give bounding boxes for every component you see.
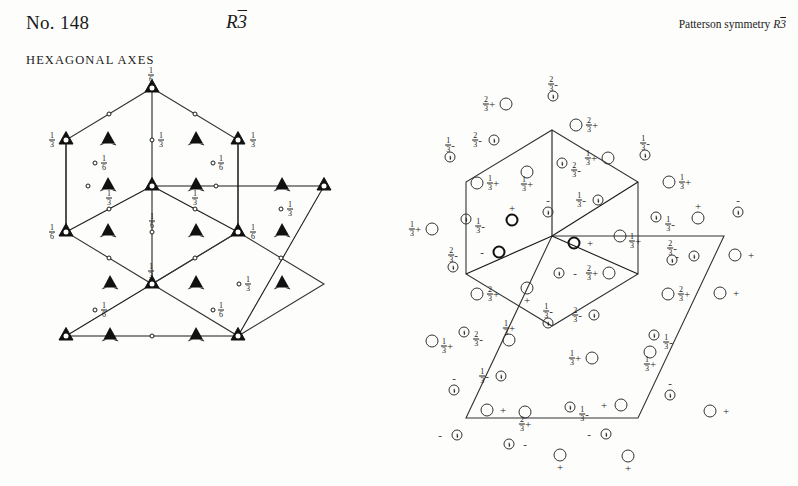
three-bar-axis-symbol	[230, 327, 246, 346]
three-fold-axis-symbol	[273, 176, 291, 196]
height-label: 13	[287, 201, 293, 218]
general-position-comma-circle	[651, 212, 662, 223]
general-position-comma-circle	[554, 268, 565, 279]
inversion-centre-symbol	[150, 230, 155, 235]
patterson-bar-three: 3	[780, 18, 786, 30]
general-position-circle	[481, 404, 494, 417]
inversion-centre-symbol	[107, 256, 112, 261]
three-bar-axis-symbol	[58, 131, 74, 150]
position-height-label: 13-	[663, 334, 673, 351]
position-height-label: +	[509, 203, 515, 214]
position-height-label: 13+	[441, 338, 453, 355]
position-height-label: 13+	[679, 174, 691, 191]
general-position-circle	[603, 267, 616, 280]
general-position-comma-circle	[496, 371, 507, 382]
position-height-label: -	[523, 439, 527, 450]
general-position-circle	[506, 214, 519, 227]
inversion-centre-symbol	[107, 207, 112, 212]
general-position-comma-circle	[689, 251, 700, 262]
position-height-label: 13-	[576, 192, 586, 209]
general-position-comma-circle	[452, 430, 463, 441]
three-fold-axis-symbol	[273, 222, 291, 242]
general-position-comma-circle	[543, 207, 554, 218]
three-fold-axis-symbol	[187, 274, 205, 294]
general-position-comma-circle	[557, 158, 568, 169]
symmetry-diagram-lines	[0, 0, 798, 486]
position-height-label: -	[452, 373, 456, 384]
position-height-label: +	[500, 405, 506, 416]
position-height-label: +	[587, 238, 593, 249]
hexagon-diagonal-divider-3	[552, 182, 638, 236]
position-height-label: 13-	[479, 368, 489, 385]
position-height-label: 13+	[629, 233, 641, 250]
inversion-centre-symbol	[93, 161, 98, 166]
general-position-circle	[570, 119, 583, 132]
space-group-number: No. 148	[26, 12, 89, 34]
position-height-label: 13-	[475, 218, 485, 235]
hermann-mauguin-symbol: R3	[226, 11, 247, 33]
general-position-comma-circle	[601, 429, 612, 440]
height-label: 16	[148, 67, 154, 84]
general-position-circle	[704, 405, 717, 418]
inversion-centre-symbol	[107, 112, 112, 117]
position-height-label: 13+	[569, 350, 581, 367]
position-height-label: 13-	[665, 216, 675, 233]
position-height-label: 13-	[543, 303, 553, 320]
position-height-label: 13-	[445, 137, 455, 154]
position-height-label: -	[480, 247, 484, 258]
general-position-circle	[586, 352, 599, 365]
height-label: 13	[250, 132, 256, 149]
general-position-comma-circle	[649, 330, 660, 341]
general-position-circle	[602, 152, 615, 165]
three-bar-axis-symbol	[58, 327, 74, 346]
general-position-comma-circle	[504, 439, 515, 450]
height-label: 13	[192, 190, 198, 207]
three-fold-axis-symbol	[187, 222, 205, 242]
position-height-label: 13+	[487, 175, 499, 192]
position-height-label: +	[557, 462, 563, 473]
three-bar-axis-symbol	[58, 223, 74, 242]
three-fold-axis-symbol	[99, 130, 117, 150]
general-position-comma-circle	[459, 327, 470, 338]
position-height-label: 23-	[571, 162, 581, 179]
general-position-circle	[714, 287, 727, 300]
height-label: 13	[148, 263, 154, 280]
height-label: 16	[101, 302, 107, 319]
height-label: 13	[245, 276, 251, 293]
height-label: 16	[49, 224, 55, 241]
height-label: 16	[250, 224, 256, 241]
inversion-centre-symbol	[279, 207, 284, 212]
inversion-centre-symbol	[211, 161, 216, 166]
hm-bar-three: 3	[238, 11, 248, 32]
general-position-circle	[663, 176, 676, 189]
inversion-centre-symbol	[150, 334, 155, 339]
three-fold-axis-symbol	[101, 326, 119, 346]
general-position-comma-circle	[665, 390, 676, 401]
general-position-diagram-lines	[0, 0, 798, 486]
position-height-label: -	[546, 195, 550, 206]
position-height-label: 13+	[644, 356, 656, 373]
position-height-label: 13+	[521, 176, 533, 193]
height-label: 13	[106, 190, 112, 207]
three-bar-axis-symbol	[316, 177, 332, 196]
position-height-label: 13-	[579, 406, 589, 423]
position-height-label: 23-	[548, 76, 558, 93]
hexagon-diagonal-divider-2	[466, 236, 552, 274]
general-position-comma-circle	[489, 135, 500, 146]
general-position-circle	[471, 288, 484, 301]
general-position-comma-circle	[461, 214, 472, 225]
inversion-centre-symbol	[211, 308, 216, 313]
three-bar-axis-symbol	[230, 223, 246, 242]
inversion-centre-symbol	[214, 184, 219, 189]
height-label: 16	[149, 213, 155, 230]
position-height-label: +	[748, 250, 754, 261]
height-label: 13	[49, 132, 55, 149]
position-height-label: 13+	[585, 150, 597, 167]
general-position-circle	[614, 230, 627, 243]
three-fold-axis-symbol	[187, 326, 205, 346]
three-fold-axis-symbol	[101, 274, 119, 294]
position-height-label: +	[601, 400, 607, 411]
position-height-label: 23-	[572, 307, 582, 324]
patterson-symmetry: Patterson symmetry R3	[679, 18, 786, 30]
three-fold-axis-symbol	[99, 222, 117, 242]
